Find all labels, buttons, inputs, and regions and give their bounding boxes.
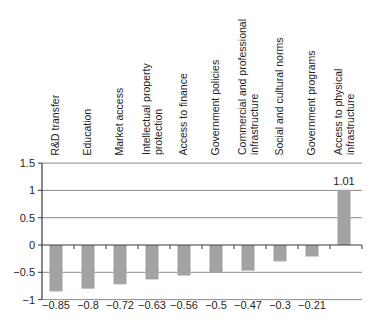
y-tick-label: −1 [22, 294, 35, 306]
value-label: −0.63 [138, 299, 166, 311]
value-label: −0.3 [269, 299, 291, 311]
value-label: −0.72 [106, 299, 134, 311]
category-label-text: Market access [114, 87, 126, 155]
value-label: −0.47 [234, 299, 262, 311]
category-label-text: Commercial and professional infrastructu… [237, 19, 260, 155]
bar [274, 245, 287, 261]
bar [178, 245, 191, 276]
y-tick-label: −0.5 [13, 266, 35, 278]
category-label-text: Education [82, 108, 94, 155]
bar [114, 245, 127, 284]
y-tick-label: 1 [29, 184, 35, 196]
value-label: 1.01 [333, 175, 354, 187]
y-tick-label: 0.5 [20, 212, 35, 224]
y-axis-ticks: 1.510.50−0.5−1 [13, 157, 42, 306]
bar-chart: 1.510.50−0.5−1 −0.85−0.8−0.72−0.63−0.56−… [0, 0, 380, 326]
bar [242, 245, 255, 271]
category-label-text: Intellectual property protection [141, 63, 164, 155]
category-label-text: Government policies [210, 59, 222, 155]
value-label: −0.5 [205, 299, 227, 311]
value-labels: −0.85−0.8−0.72−0.63−0.56−0.5−0.47−0.3−0.… [42, 175, 355, 311]
category-label-text: Social and cultural norms [274, 37, 286, 155]
bar [210, 245, 223, 272]
y-tick-label: 1.5 [20, 157, 35, 169]
bar [338, 190, 351, 245]
bar [146, 245, 159, 279]
value-label: −0.21 [298, 299, 326, 311]
value-label: −0.85 [42, 299, 70, 311]
value-label: −0.8 [77, 299, 99, 311]
category-label-text: R&D transfer [50, 94, 62, 155]
y-tick-label: 0 [29, 239, 35, 251]
bar [50, 245, 63, 291]
bar [82, 245, 95, 289]
category-label-text: Access to physical infrastructure [333, 69, 356, 155]
bar [306, 245, 319, 256]
category-label-text: Access to finance [178, 73, 190, 155]
category-label-text: Government programs [306, 50, 318, 155]
value-label: −0.56 [170, 299, 198, 311]
bars [50, 190, 351, 292]
